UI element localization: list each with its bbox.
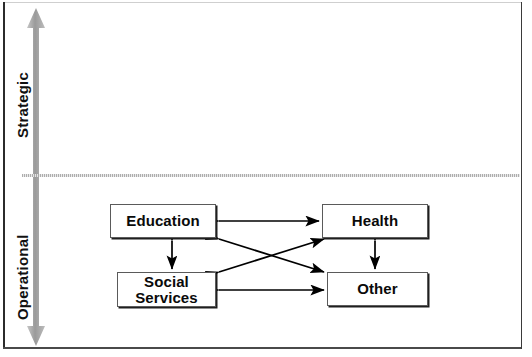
frame-bottom-border <box>3 347 521 349</box>
node-other[interactable]: Other <box>327 272 428 306</box>
node-health[interactable]: Health <box>322 204 428 238</box>
connector-arrows <box>0 0 532 357</box>
node-health-label: Health <box>352 213 398 229</box>
frame-top-border <box>3 2 521 3</box>
node-education-label: Education <box>126 213 199 229</box>
axis-label-operational: Operational <box>14 234 31 320</box>
arrow-social-health <box>219 239 324 272</box>
node-social-services[interactable]: Social Services <box>117 272 216 307</box>
node-other-label: Other <box>357 281 398 297</box>
axis-label-strategic: Strategic <box>14 72 31 138</box>
frame-left-border <box>3 2 5 349</box>
arrow-education-other <box>219 239 324 272</box>
diagram-canvas: Strategic Operational Education Social <box>0 0 532 357</box>
node-education[interactable]: Education <box>110 204 216 238</box>
frame-right-border <box>521 2 522 349</box>
strategic-operational-divider <box>22 174 520 177</box>
node-social-services-label: Social Services <box>135 274 198 306</box>
